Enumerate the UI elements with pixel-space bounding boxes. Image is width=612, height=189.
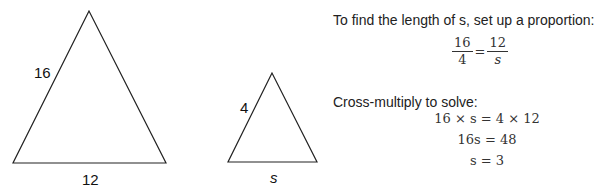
cross-multiply-text: Cross-multiply to solve: [333,94,478,110]
equals-sign: = [475,44,486,59]
left-denominator: 4 [456,52,468,68]
small-triangle [228,73,317,162]
step-3: s = 3 [432,153,542,168]
left-numerator: 16 [452,35,473,52]
proportion-equation: 16 4 = 12 s [452,35,508,68]
right-numerator: 12 [487,35,508,52]
large-triangle [13,11,166,163]
left-fraction: 16 4 [452,35,473,68]
small-triangle-side-label: 4 [240,99,248,116]
right-fraction: 12 s [487,35,508,68]
large-triangle-base-label: 12 [82,171,99,188]
intro-text: To find the length of s, set up a propor… [333,12,595,28]
step-1: 16 × s = 4 × 12 [432,111,542,126]
step-2: 16s = 48 [432,132,542,147]
large-triangle-side-label: 16 [34,64,51,81]
right-denominator: s [492,52,503,68]
small-triangle-base-label: s [270,169,278,186]
